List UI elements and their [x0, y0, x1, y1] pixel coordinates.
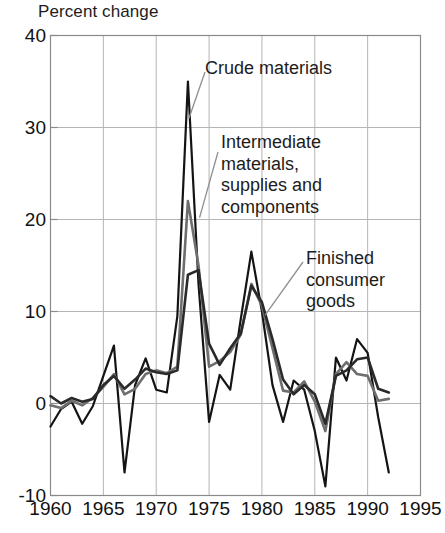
x-tick-label: 1965 [82, 498, 124, 520]
annotation-leader-line [189, 72, 205, 118]
y-tick-label: 10 [2, 301, 46, 323]
y-tick-label: 0 [2, 393, 46, 415]
x-tick-label: 1990 [347, 498, 389, 520]
annotation-leader-line [265, 262, 303, 315]
annotation-intermediate-materials: Intermediate materials, supplies and com… [221, 132, 322, 218]
percent-change-line-chart: Percent change -10010203040 196019651970… [0, 0, 445, 533]
annotation-crude-materials: Crude materials [205, 58, 332, 80]
x-tick-label: 1960 [29, 498, 71, 520]
x-tick-label: 1970 [135, 498, 177, 520]
x-tick-label: 1980 [241, 498, 283, 520]
series-line-1 [51, 201, 389, 431]
x-tick-label: 1995 [399, 498, 441, 520]
y-tick-label: 20 [2, 209, 46, 231]
y-tick-label: 30 [2, 117, 46, 139]
annotation-finished-consumer-goods: Finished consumer goods [306, 248, 385, 313]
y-axis-tick-labels: -10010203040 [0, 0, 46, 533]
x-tick-label: 1975 [188, 498, 230, 520]
y-tick-label: 40 [2, 25, 46, 47]
x-tick-label: 1985 [294, 498, 336, 520]
